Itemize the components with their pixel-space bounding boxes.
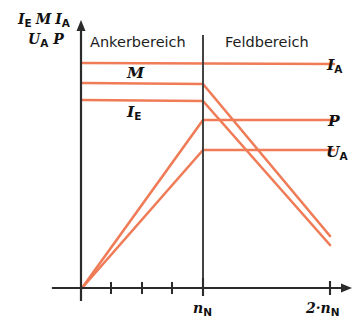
- curve-label-ia: IA: [326, 55, 343, 75]
- x-axis-arrow: [341, 284, 352, 293]
- motor-characteristic-diagram: IEMIA UAP Ankerbereich Feldbereich IA P …: [0, 0, 360, 321]
- curve-label-p: P: [327, 111, 341, 130]
- x-tick-label-2nn-sub: N: [331, 306, 340, 318]
- curve-ia: [82, 63, 334, 64]
- curve-label-p-base: P: [327, 111, 341, 130]
- curve-label-ie: IE: [126, 102, 141, 122]
- y-axis-title: IEMIA UAP: [17, 11, 71, 49]
- region-label-feldbereich: Feldbereich: [225, 34, 309, 50]
- curve-label-m-base: M: [126, 63, 145, 82]
- curve-label-ua: UA: [326, 142, 349, 162]
- curve-ie: [82, 100, 330, 245]
- curve-group: [82, 63, 334, 288]
- y-title-p-base: P: [52, 31, 64, 47]
- x-tick-label-2nn: 2·nN: [305, 300, 340, 318]
- y-title-ua-base: U: [28, 31, 41, 47]
- curve-label-m: M: [126, 63, 145, 82]
- curve-p: [82, 120, 334, 288]
- y-title-m-base: M: [35, 11, 52, 27]
- figure-canvas: IEMIA UAP Ankerbereich Feldbereich IA P …: [0, 0, 360, 321]
- curve-ua: [82, 150, 334, 288]
- curve-label-ua-sub: A: [340, 150, 349, 162]
- x-tick-label-nn-base: n: [193, 300, 203, 316]
- x-tick-label-2nn-base: 2·n: [305, 300, 331, 316]
- y-axis-arrow: [77, 20, 86, 31]
- x-tick-label-nn: nN: [193, 300, 212, 318]
- y-title-ua-sub: A: [40, 37, 49, 49]
- region-label-ankerbereich: Ankerbereich: [90, 34, 186, 50]
- y-title-ie-sub: E: [25, 17, 32, 29]
- y-axis-title-line2: UAP: [28, 31, 64, 49]
- y-title-ia-sub: A: [62, 17, 71, 29]
- x-tick-label-nn-sub: N: [203, 306, 212, 318]
- y-axis-title-line1: IEMIA: [17, 11, 71, 29]
- curve-label-ie-sub: E: [134, 110, 141, 122]
- curve-label-ia-sub: A: [334, 63, 343, 75]
